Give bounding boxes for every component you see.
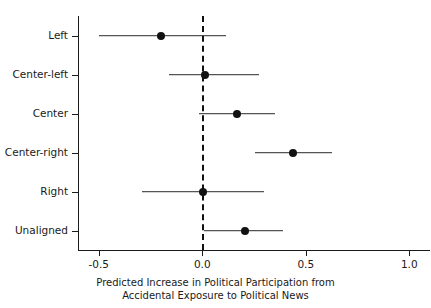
- x-tick-0.0: [202, 250, 203, 256]
- x-axis-title: Predicted Increase in Political Particip…: [0, 276, 431, 302]
- estimate-point-right: [199, 188, 207, 196]
- y-axis-line: [78, 16, 79, 250]
- y-axis-label-left: Left: [0, 30, 68, 41]
- x-tick-0.5: [306, 250, 307, 256]
- estimate-point-unaligned: [241, 227, 249, 235]
- y-axis-label-center-right: Center-right: [0, 147, 68, 158]
- y-axis-label-center-left: Center-left: [0, 69, 68, 80]
- y-tick-right: [72, 192, 78, 193]
- y-axis-label-center: Center: [0, 108, 68, 119]
- y-tick-left: [72, 36, 78, 37]
- x-axis-tick-label-0.5: 0.5: [297, 258, 314, 270]
- y-tick-center-left: [72, 75, 78, 76]
- x-axis-title-line-1: Predicted Increase in Political Particip…: [0, 276, 431, 289]
- confidence-interval-center-left: [169, 74, 259, 76]
- y-tick-center: [72, 114, 78, 115]
- zero-reference-line: [202, 16, 204, 250]
- x-tick-1.0: [409, 250, 410, 256]
- coefficient-plot-figure: LeftCenter-leftCenterCenter-rightRightUn…: [0, 0, 431, 308]
- y-tick-unaligned: [72, 231, 78, 232]
- x-tick--0.5: [99, 250, 100, 256]
- estimate-point-center-right: [289, 149, 297, 157]
- x-axis-tick-label-0.0: 0.0: [194, 258, 211, 270]
- y-axis-label-unaligned: Unaligned: [0, 225, 68, 236]
- y-axis-label-right: Right: [0, 186, 68, 197]
- x-axis-line: [78, 250, 430, 251]
- estimate-point-left: [157, 32, 165, 40]
- y-tick-center-right: [72, 153, 78, 154]
- x-axis-tick-label-1.0: 1.0: [401, 258, 418, 270]
- estimate-point-center-left: [201, 71, 209, 79]
- x-axis-tick-label--0.5: -0.5: [88, 258, 109, 270]
- estimate-point-center: [233, 110, 241, 118]
- x-axis-title-line-2: Accidental Exposure to Political News: [0, 289, 431, 302]
